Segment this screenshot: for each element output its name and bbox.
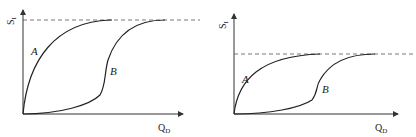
x-axis-label: QD [375, 122, 387, 135]
curve-b [234, 54, 375, 114]
y-axis-label: SI [5, 16, 18, 25]
left-panel: A B SI QD [5, 10, 200, 135]
svg-text:SI: SI [5, 16, 18, 25]
curve-b-label: B [110, 65, 117, 77]
curve-b-label: B [322, 83, 329, 95]
y-axis-label: SI [217, 20, 230, 29]
curve-a [23, 20, 112, 114]
curve-b [23, 20, 165, 114]
diagram-canvas: A B SI QD A B SI QD [0, 0, 416, 137]
right-panel: A B SI QD [217, 14, 416, 135]
x-axis-label: QD [158, 122, 170, 135]
svg-text:SI: SI [217, 20, 230, 29]
curve-a-label: A [30, 45, 38, 57]
curve-a-label: A [241, 73, 249, 85]
